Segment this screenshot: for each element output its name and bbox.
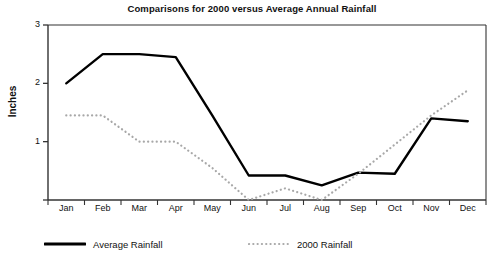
x-tick-label-mar: Mar [119,203,159,213]
legend-item-average-rainfall: Average Rainfall [44,236,163,252]
x-tick-label-apr: Apr [156,203,196,213]
series-line-1 [66,90,468,200]
chart-legend: Average Rainfall2000 Rainfall [0,236,504,256]
legend-swatch-dotted-line-icon [248,239,290,249]
x-tick-label-may: May [192,203,232,213]
x-tick-label-sep: Sep [338,203,378,213]
x-tick-label-jan: Jan [46,203,86,213]
series-line-0 [66,54,468,185]
legend-label: 2000 Rainfall [297,239,352,250]
legend-label: Average Rainfall [93,239,163,250]
y-tick-label: 1 [22,136,40,146]
y-tick-label: 2 [22,77,40,87]
legend-item-rainfall-2000: 2000 Rainfall [248,236,352,252]
y-tick-label: 3 [22,19,40,29]
x-tick-label-aug: Aug [302,203,342,213]
series-group [66,54,468,200]
legend-swatch-solid-line-icon [44,239,86,249]
x-tick-label-dec: Dec [448,203,488,213]
x-tick-label-nov: Nov [411,203,451,213]
x-tick-label-oct: Oct [375,203,415,213]
x-tick-label-jul: Jul [265,203,305,213]
plot-area [0,0,504,262]
rainfall-line-chart: Comparisons for 2000 versus Average Annu… [0,0,504,262]
axes-group [43,25,486,205]
x-tick-label-jun: Jun [229,203,269,213]
x-tick-label-feb: Feb [83,203,123,213]
